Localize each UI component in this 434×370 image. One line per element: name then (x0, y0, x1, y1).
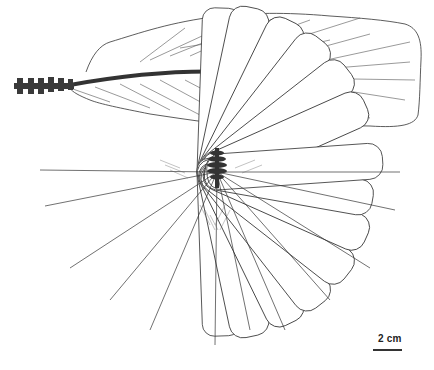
scale-bar-label: 2 cm (378, 333, 402, 344)
tail-reconstruction-figure: 2 cm (0, 0, 434, 370)
scale-bar (373, 349, 402, 351)
